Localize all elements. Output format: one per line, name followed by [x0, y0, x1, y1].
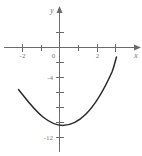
- y-axis-arrowhead: [57, 6, 63, 13]
- origin-label: 0: [52, 52, 56, 60]
- y-tick-label-neg4: -4: [47, 74, 53, 82]
- y-tick-label-neg12: -12: [44, 134, 54, 142]
- x-tick-label-pos2: 2: [96, 52, 100, 60]
- graph-figure: -2 2 0 -4 -12 y x: [0, 0, 142, 156]
- parabola-plot: -2 2 0 -4 -12 y x: [0, 0, 142, 156]
- y-axis-label: y: [49, 6, 54, 15]
- x-tick-label-neg2: -2: [20, 52, 26, 60]
- x-axis-arrowhead: [134, 45, 141, 51]
- x-axis-label: x: [133, 51, 138, 60]
- parabola-curve: [19, 57, 117, 126]
